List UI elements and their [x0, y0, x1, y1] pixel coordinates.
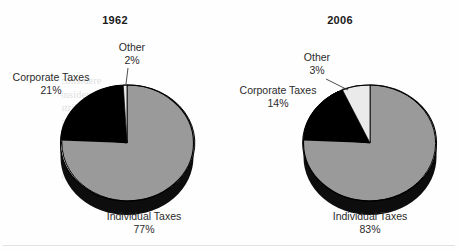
callout-individual-right-value: 83% — [318, 223, 422, 236]
leader-line-other-right — [326, 79, 348, 90]
callout-corporate-left-value: 21% — [6, 84, 96, 97]
callout-individual-right: Individual Taxes 83% — [318, 210, 422, 235]
callout-individual-left-value: 77% — [94, 223, 194, 236]
callout-individual-left: Individual Taxes 77% — [94, 210, 194, 235]
pie-chart-1962: 1962 considere insider ma strike; cand e… — [0, 0, 230, 251]
figure-root: 1962 considere insider ma strike; cand e… — [0, 0, 460, 251]
callout-corporate-right-value: 14% — [230, 97, 326, 110]
callout-other-left: Other 2% — [101, 41, 163, 66]
callout-individual-left-name: Individual Taxes — [94, 210, 194, 223]
callout-corporate-right: Corporate Taxes 14% — [230, 84, 326, 109]
footer-divider — [3, 245, 455, 246]
callout-other-right: Other 3% — [287, 51, 347, 76]
callout-other-left-name: Other — [101, 41, 163, 54]
callout-corporate-left: Corporate Taxes 21% — [6, 71, 96, 96]
callout-other-right-value: 3% — [287, 64, 347, 77]
callout-corporate-right-name: Corporate Taxes — [230, 84, 326, 97]
callout-corporate-left-name: Corporate Taxes — [6, 71, 96, 84]
callout-individual-right-name: Individual Taxes — [318, 210, 422, 223]
callout-other-left-value: 2% — [101, 54, 163, 67]
pie-chart-2006: 2006 here is to was described ctive when… — [230, 0, 460, 251]
callout-other-right-name: Other — [287, 51, 347, 64]
leader-line-other-left — [126, 68, 128, 84]
